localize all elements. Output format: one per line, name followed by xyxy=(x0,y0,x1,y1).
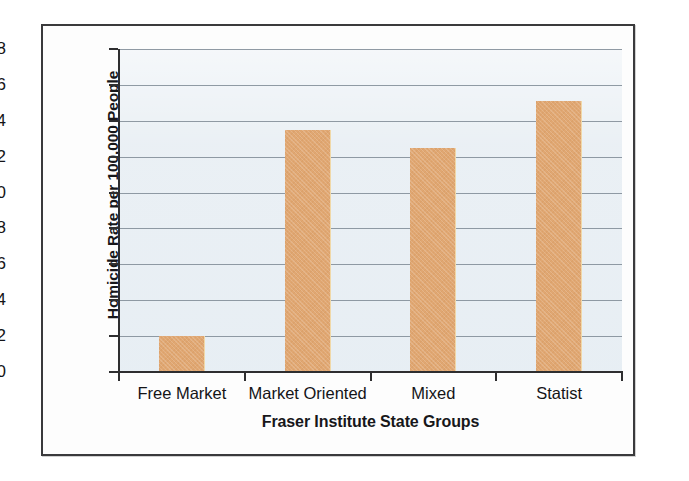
y-axis-tick-label: 4 xyxy=(0,291,6,308)
bar-market-oriented xyxy=(285,130,331,372)
bar-statist xyxy=(536,101,582,372)
y-axis-tick xyxy=(109,335,118,337)
y-axis-tick-label: 14 xyxy=(0,112,6,129)
y-axis-tick xyxy=(109,371,118,373)
gridline xyxy=(119,85,622,86)
bar-mixed xyxy=(410,148,456,372)
gridline xyxy=(119,49,622,50)
x-axis-tick xyxy=(370,372,372,381)
y-axis-tick xyxy=(109,84,118,86)
bar-free-market xyxy=(159,336,205,372)
figure-frame: Homicide Rate per 100,000 People 0246810… xyxy=(41,24,635,456)
y-axis-tick-label: 12 xyxy=(0,148,6,165)
y-axis-tick xyxy=(109,263,118,265)
y-axis-tick-label: 0 xyxy=(0,363,6,380)
y-axis-tick xyxy=(109,192,118,194)
y-axis-tick xyxy=(109,48,118,50)
y-axis-line xyxy=(118,49,120,373)
y-axis-tick-label: 6 xyxy=(0,255,6,272)
x-axis-tick xyxy=(495,372,497,381)
y-axis-tick-label: 16 xyxy=(0,76,6,93)
y-axis-tick-label: 10 xyxy=(0,184,6,201)
y-axis-tick xyxy=(109,120,118,122)
x-axis-tick xyxy=(244,372,246,381)
y-axis-tick-label: 18 xyxy=(0,40,6,57)
y-axis-tick-label: 2 xyxy=(0,327,6,344)
x-axis-tick xyxy=(621,372,623,381)
x-axis-tick-label: Mixed xyxy=(371,384,497,403)
x-axis-tick-label: Statist xyxy=(496,384,622,403)
x-axis-tick-label: Free Market xyxy=(119,384,245,403)
bar-chart: Homicide Rate per 100,000 People 0246810… xyxy=(43,26,633,454)
y-axis-tick xyxy=(109,227,118,229)
y-axis-tick-label: 8 xyxy=(0,219,6,236)
x-axis-tick-label: Market Oriented xyxy=(245,384,371,403)
y-axis-tick xyxy=(109,299,118,301)
y-axis-tick xyxy=(109,156,118,158)
x-axis-title: Fraser Institute State Groups xyxy=(119,413,622,431)
x-axis-tick xyxy=(118,372,120,381)
plot-area xyxy=(119,49,622,372)
